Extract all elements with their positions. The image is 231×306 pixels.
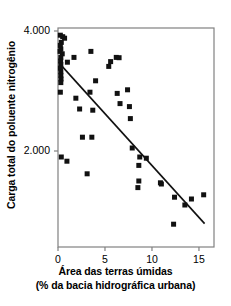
data-point-marker <box>189 197 194 202</box>
data-point-marker <box>115 91 120 96</box>
data-point-marker <box>201 192 206 197</box>
tick-marks <box>54 31 199 251</box>
data-point-marker <box>117 55 122 60</box>
data-point-marker <box>87 90 92 95</box>
data-point-marker <box>89 135 94 140</box>
data-point-marker <box>58 80 63 85</box>
data-point-marker <box>73 96 78 101</box>
regression-trend-line <box>59 63 204 223</box>
data-point-marker <box>58 90 63 95</box>
data-point-marker <box>159 182 164 187</box>
x-axis-title-line1: Área das terras úmidas <box>0 264 231 278</box>
y-tick-label: 2.000 <box>6 144 50 156</box>
data-point-marker <box>137 155 142 160</box>
data-point-marker <box>136 179 141 184</box>
data-point-marker <box>71 55 76 60</box>
data-point-marker <box>85 171 90 176</box>
data-point-marker <box>65 60 70 65</box>
x-axis-title-container: Área das terras úmidas (% da bacia hidro… <box>0 264 231 292</box>
data-points-layer <box>58 33 207 227</box>
data-point-marker <box>88 49 93 54</box>
data-point-marker <box>172 195 177 200</box>
y-axis-title-container: Carga total do poluente nitrogênio <box>0 0 22 250</box>
data-point-marker <box>106 64 111 69</box>
trend-line-layer <box>59 63 204 223</box>
y-tick-label: 4.000 <box>6 24 50 36</box>
data-point-marker <box>182 203 187 208</box>
x-axis-title-line2: (% da bacia hidrográfica urbana) <box>0 278 231 292</box>
data-point-marker <box>108 59 113 64</box>
scatter-plot-figure: Carga total do poluente nitrogênio 2.000… <box>0 0 231 306</box>
data-point-marker <box>80 135 85 140</box>
y-axis-title: Carga total do poluente nitrogênio <box>5 41 17 209</box>
data-point-marker <box>93 78 98 83</box>
data-point-marker <box>127 104 132 109</box>
data-point-marker <box>144 156 149 161</box>
data-point-marker <box>118 101 123 106</box>
data-point-marker <box>130 146 135 151</box>
data-point-marker <box>77 107 82 112</box>
data-point-marker <box>171 222 176 227</box>
data-point-marker <box>59 155 64 160</box>
data-point-marker <box>90 108 95 113</box>
data-point-marker <box>64 159 69 164</box>
data-point-marker <box>135 185 140 190</box>
data-point-marker <box>128 116 133 121</box>
data-point-marker <box>136 163 141 168</box>
data-point-marker <box>125 87 130 92</box>
